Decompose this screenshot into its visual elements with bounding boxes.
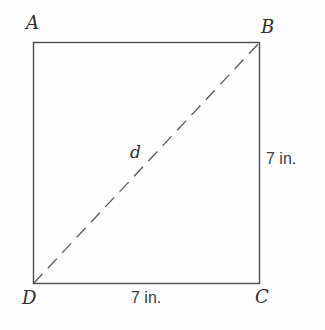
vertex-label-B: B bbox=[261, 18, 274, 36]
diagonal-line bbox=[34, 43, 260, 284]
vertex-label-D: D bbox=[22, 289, 36, 307]
side-measure-bottom: 7 in. bbox=[131, 290, 161, 306]
vertex-label-C: C bbox=[255, 288, 269, 306]
geometry-diagram: A B C D d 7 in. 7 in. bbox=[0, 0, 325, 330]
side-measure-right: 7 in. bbox=[266, 151, 296, 167]
diagonal-label: d bbox=[130, 144, 141, 161]
vertex-label-A: A bbox=[26, 14, 39, 32]
